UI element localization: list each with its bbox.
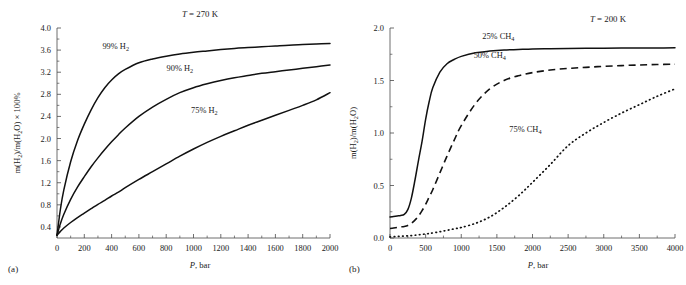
y-tick-label: 1.2 [41,179,51,188]
curve-group-b [390,48,675,237]
x-tick-label: 0 [55,244,59,253]
svg-text:m(H2)/m(H2O): m(H2)/m(H2O) [348,107,359,159]
series-label: 25% CH4 [482,32,514,42]
x-tick-label: 4000 [667,244,684,253]
y-axis-title-a: m(H2)/m(H2O) × 100% [12,92,23,173]
x-tick-group-b: 05001000150020002500300035004000 [388,234,683,253]
curve-group-a [57,43,330,235]
chart-title-b: T = 200 K [590,14,627,24]
x-tick-label: 1200 [212,244,229,253]
x-tick-label: 200 [78,244,91,253]
chart-title-a: T = 270 K [182,9,219,19]
chart-svg-b: T = 200 K 0.00.51.01.52.0 05001000150020… [343,0,686,285]
series-label: 99% H2 [102,42,129,52]
y-tick-label: 1.6 [41,157,51,166]
y-tick-label: 0.8 [41,201,51,210]
y-axis-title-b: m(H2)/m(H2O) [348,107,359,159]
y-tick-label: 2.8 [41,90,51,99]
x-tick-group-a: 0200400600800100012001400160018002000 [55,234,338,253]
y-tick-label: 3.2 [41,68,51,77]
series-label: 75% CH4 [509,125,541,135]
data-curve [57,43,330,235]
x-tick-label: 2500 [560,244,577,253]
x-tick-label: 1600 [267,244,284,253]
y-tick-label: 2.4 [41,112,52,121]
x-tick-label: 1000 [185,244,202,253]
figure-container: T = 270 K 0.40.81.21.62.02.42.83.23.64.0… [0,0,686,285]
x-tick-label: 1000 [453,244,470,253]
x-tick-label: 1500 [489,244,506,253]
x-tick-label: 3000 [595,244,612,253]
data-curve [390,89,675,237]
series-label: 75% H2 [191,106,218,116]
x-tick-label: 3500 [631,244,648,253]
series-label-group-a: 99% H290% H275% H2 [102,42,217,116]
y-tick-label: 1.5 [374,77,384,86]
chart-panel-b: T = 200 K 0.00.51.01.52.0 05001000150020… [343,0,686,285]
series-label: 50% CH4 [474,51,506,61]
y-tick-label: 3.6 [41,46,51,55]
data-curve [57,65,330,235]
y-tick-label: 4.0 [41,24,51,33]
y-tick-group-b: 0.00.51.01.52.0 [374,24,394,243]
x-tick-label: 1800 [294,244,311,253]
chart-panel-a: T = 270 K 0.40.81.21.62.02.42.83.23.64.0… [0,0,343,285]
series-label-group-b: 25% CH450% CH475% CH4 [474,32,542,135]
series-label: 90% H2 [167,64,194,74]
panel-tag-a: (a) [8,264,18,274]
x-tick-label: 0 [388,244,392,253]
x-tick-label: 600 [133,244,146,253]
x-axis-title-b: P, bar [527,260,549,270]
x-tick-label: 800 [160,244,173,253]
x-tick-label: 2000 [322,244,339,253]
y-tick-label: 0.5 [374,182,384,191]
svg-text:m(H2)/m(H2O) × 100%: m(H2)/m(H2O) × 100% [12,92,23,173]
panel-tag-b: (b) [349,264,360,274]
y-tick-label: 2.0 [374,24,384,33]
x-tick-label: 400 [105,244,118,253]
y-tick-group-a: 0.40.81.21.62.02.42.83.23.64.0 [41,24,61,232]
x-tick-label: 2000 [524,244,541,253]
y-tick-label: 1.0 [374,129,384,138]
x-tick-label: 1400 [240,244,257,253]
y-tick-label: 2.0 [41,135,51,144]
chart-svg-a: T = 270 K 0.40.81.21.62.02.42.83.23.64.0… [0,0,343,285]
x-tick-label: 500 [419,244,432,253]
y-tick-label: 0.4 [41,223,52,232]
x-axis-title-a: P, bar [189,260,211,270]
y-tick-label: 0.0 [374,234,384,243]
